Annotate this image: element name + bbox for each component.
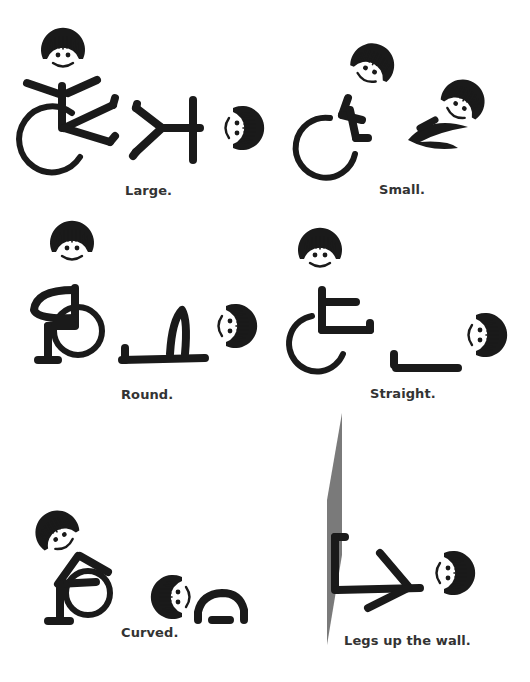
round-illustration <box>0 220 270 410</box>
head-icon <box>41 28 85 67</box>
wall-shape <box>327 413 342 645</box>
caption-legs-up-the-wall: Legs up the wall. <box>344 633 471 648</box>
head-icon <box>50 221 94 260</box>
caption-round: Round. <box>121 387 173 402</box>
panel-curved: Curved. <box>0 480 280 680</box>
panel-straight: Straight. <box>270 220 530 410</box>
small-illustration <box>270 0 530 200</box>
caption-curved: Curved. <box>121 625 178 640</box>
panel-small: Small. <box>270 0 530 200</box>
caption-straight: Straight. <box>370 386 436 401</box>
head-icon <box>298 228 342 267</box>
caption-small: Small. <box>379 182 425 197</box>
panel-large: Large. <box>0 0 270 200</box>
panel-round: Round. <box>0 220 270 410</box>
curved-illustration <box>0 480 280 680</box>
panel-legs-up-the-wall: Legs up the wall. <box>300 400 530 682</box>
large-illustration <box>0 0 270 200</box>
caption-large: Large. <box>125 183 172 198</box>
straight-illustration <box>270 220 530 410</box>
